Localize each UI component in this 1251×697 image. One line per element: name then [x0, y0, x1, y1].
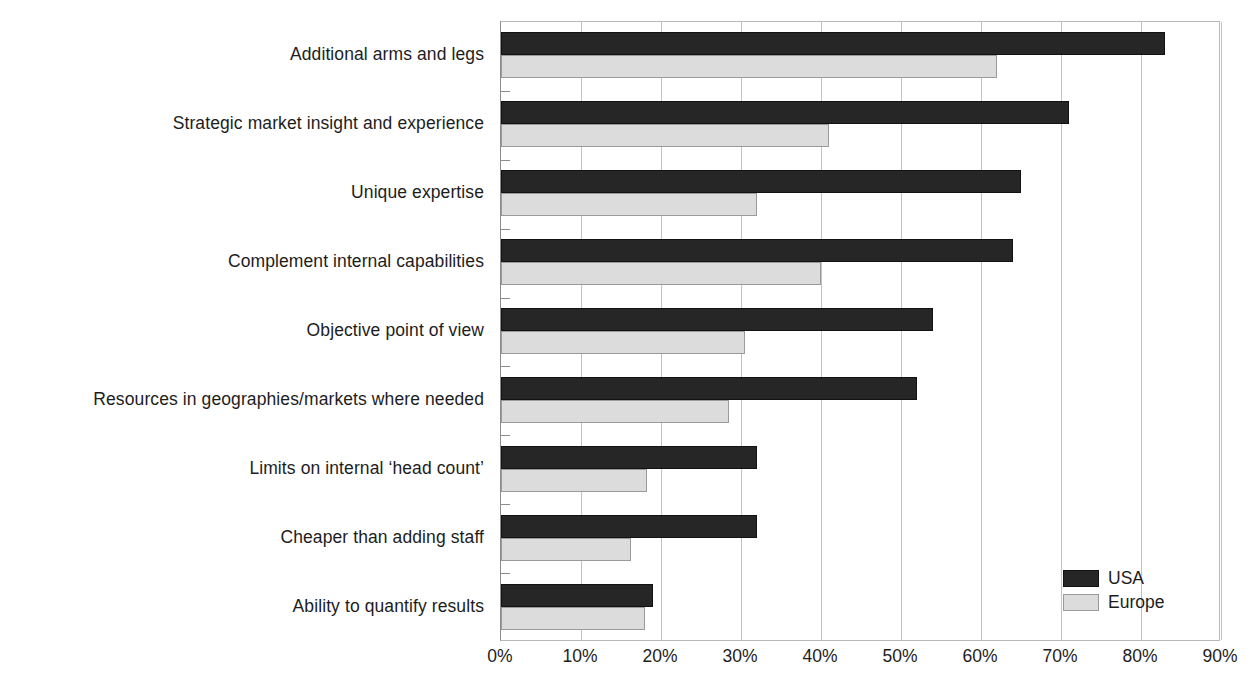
x-tick-label-60: 60% — [962, 645, 997, 667]
category-label-6: Limits on internal ‘head count’ — [0, 458, 492, 478]
category-label-1: Strategic market insight and experience — [0, 113, 492, 133]
horizontal-bar-chart: Additional arms and legsStrategic market… — [0, 0, 1251, 697]
bar-usa-1 — [501, 101, 1069, 124]
legend-label-usa: USA — [1108, 568, 1144, 588]
bar-usa-6 — [501, 446, 757, 469]
x-tick-label-10: 10% — [562, 645, 597, 667]
x-tick-label-80: 80% — [1122, 645, 1157, 667]
gridline — [1221, 22, 1222, 640]
bar-europe-0 — [501, 55, 997, 78]
bar-usa-8 — [501, 584, 653, 607]
category-minor-tick — [501, 91, 510, 92]
gridline — [1141, 22, 1142, 640]
x-tick-label-70: 70% — [1042, 645, 1077, 667]
bar-usa-5 — [501, 377, 917, 400]
category-label-2: Unique expertise — [0, 182, 492, 202]
chart-legend: USAEurope — [1063, 566, 1173, 614]
bar-europe-7 — [501, 538, 631, 561]
x-tick-label-20: 20% — [642, 645, 677, 667]
category-label-3: Complement internal capabilities — [0, 251, 492, 271]
x-tick-label-30: 30% — [722, 645, 757, 667]
category-label-4: Objective point of view — [0, 320, 492, 340]
category-minor-tick — [501, 573, 510, 574]
plot-area — [500, 21, 1220, 641]
category-label-8: Ability to quantify results — [0, 596, 492, 616]
value-axis: 0%10%20%30%40%50%60%70%80%90% — [500, 645, 1220, 675]
x-tick-label-90: 90% — [1202, 645, 1237, 667]
category-minor-tick — [501, 435, 510, 436]
bar-usa-3 — [501, 239, 1013, 262]
x-tick-label-40: 40% — [802, 645, 837, 667]
category-label-0: Additional arms and legs — [0, 44, 492, 64]
bar-usa-0 — [501, 32, 1165, 55]
bar-europe-4 — [501, 331, 745, 354]
category-minor-tick — [501, 160, 510, 161]
legend-item-europe: Europe — [1063, 590, 1173, 614]
bar-usa-2 — [501, 170, 1021, 193]
bar-usa-4 — [501, 308, 933, 331]
bar-europe-5 — [501, 400, 729, 423]
x-tick-label-0: 0% — [487, 645, 512, 667]
category-label-7: Cheaper than adding staff — [0, 527, 492, 547]
legend-swatch-europe — [1063, 594, 1099, 611]
category-axis: Additional arms and legsStrategic market… — [0, 21, 492, 641]
bar-europe-3 — [501, 262, 821, 285]
bar-europe-1 — [501, 124, 829, 147]
category-minor-tick — [501, 366, 510, 367]
bar-europe-6 — [501, 469, 647, 492]
bar-usa-7 — [501, 515, 757, 538]
bar-europe-2 — [501, 193, 757, 216]
category-label-5: Resources in geographies/markets where n… — [0, 389, 492, 409]
category-minor-tick — [501, 298, 510, 299]
plot-inner — [501, 22, 1219, 640]
legend-swatch-usa — [1063, 570, 1099, 587]
category-minor-tick — [501, 504, 510, 505]
category-minor-tick — [501, 229, 510, 230]
legend-item-usa: USA — [1063, 566, 1173, 590]
x-tick-label-50: 50% — [882, 645, 917, 667]
legend-label-europe: Europe — [1108, 592, 1164, 612]
bar-europe-8 — [501, 607, 645, 630]
